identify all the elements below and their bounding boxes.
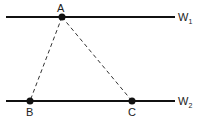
label-b: B [26, 106, 33, 118]
dashed-segment-ab [30, 17, 62, 101]
label-a: A [57, 2, 65, 14]
dashed-segment-ac [62, 17, 132, 101]
diagram-canvas: A B C W1 W2 [0, 0, 197, 119]
label-c: C [128, 106, 136, 118]
point-a [59, 14, 66, 21]
point-b [27, 98, 34, 105]
label-w1: W1 [178, 11, 192, 25]
label-w2: W2 [178, 95, 192, 109]
point-c [129, 98, 136, 105]
